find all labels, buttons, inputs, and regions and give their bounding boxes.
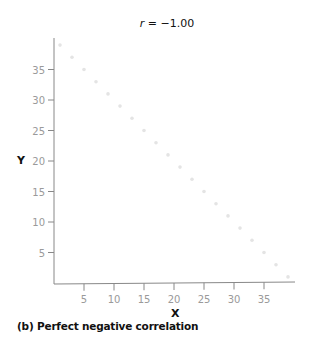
- data-point: [166, 153, 170, 157]
- data-point: [286, 275, 290, 279]
- y-tick-label: 20: [32, 156, 45, 167]
- data-point: [238, 226, 242, 230]
- y-tick-label: 10: [32, 217, 45, 228]
- x-tick-label: 5: [81, 294, 87, 305]
- data-point: [130, 117, 134, 121]
- data-point: [154, 141, 158, 145]
- data-point: [214, 202, 218, 206]
- data-point: [142, 129, 146, 133]
- data-point: [262, 251, 266, 255]
- x-tick-label: 20: [168, 294, 181, 305]
- data-point: [118, 104, 122, 108]
- figure-caption: (b) Perfect negative correlation: [17, 320, 198, 332]
- data-point: [70, 56, 74, 60]
- data-points: [58, 43, 290, 278]
- data-point: [274, 263, 278, 267]
- data-point: [202, 190, 206, 194]
- x-tick-label: 30: [228, 294, 241, 305]
- x-tick-label: 15: [138, 294, 151, 305]
- data-point: [58, 43, 62, 47]
- data-point: [226, 214, 230, 218]
- x-tick-label: 10: [108, 294, 121, 305]
- y-tick-label: 35: [32, 65, 45, 76]
- y-tick-label: 30: [32, 95, 45, 106]
- scatter-plot: 5101520253035 5101520253035 Y X: [0, 0, 309, 342]
- data-point: [106, 92, 110, 96]
- x-tick-label: 25: [198, 294, 211, 305]
- data-point: [178, 165, 182, 169]
- data-point: [82, 68, 86, 72]
- x-tick-label: 35: [258, 294, 271, 305]
- y-tick-label: 5: [39, 248, 45, 259]
- data-point: [94, 80, 98, 84]
- x-axis-label: X: [171, 307, 180, 320]
- data-point: [250, 239, 254, 243]
- y-ticks: 5101520253035: [32, 65, 54, 259]
- x-ticks: 5101520253035: [81, 282, 271, 305]
- y-tick-label: 15: [32, 187, 45, 198]
- y-axis-label: Y: [16, 154, 26, 167]
- data-point: [190, 178, 194, 182]
- y-tick-label: 25: [32, 126, 45, 137]
